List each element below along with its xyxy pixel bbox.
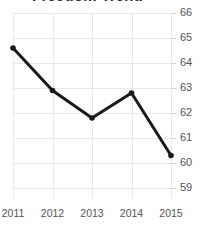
line-chart: Freedom Trend 66656463626160592011201220… [0,0,201,226]
data-point-marker [168,153,174,159]
y-axis-label: 60 [180,157,201,168]
y-axis-label: 64 [180,57,201,68]
y-axis-label: 63 [180,82,201,93]
y-axis-label: 59 [180,182,201,193]
y-axis-label: 62 [180,107,201,118]
series-line-freedom-trend [13,48,171,156]
x-axis-label: 2014 [112,208,152,219]
y-axis-tick [172,113,176,114]
y-axis-tick [172,163,176,164]
data-point-marker [50,88,56,94]
y-axis-tick [172,63,176,64]
x-axis-label: 2011 [0,208,33,219]
y-axis-label: 61 [180,132,201,143]
data-point-marker [10,45,16,51]
y-axis-label: 66 [180,7,201,18]
y-axis-tick [172,188,176,189]
x-axis-label: 2013 [72,208,112,219]
x-axis-label: 2012 [33,208,73,219]
y-axis-tick [172,138,176,139]
data-point-marker [129,90,135,96]
series-line-layer [0,0,201,226]
y-axis-tick [172,38,176,39]
y-axis-label: 65 [180,32,201,43]
x-axis-label: 2015 [151,208,191,219]
data-point-marker [89,115,95,121]
y-axis-tick [172,13,176,14]
y-axis-tick [172,88,176,89]
series-markers [10,45,174,158]
